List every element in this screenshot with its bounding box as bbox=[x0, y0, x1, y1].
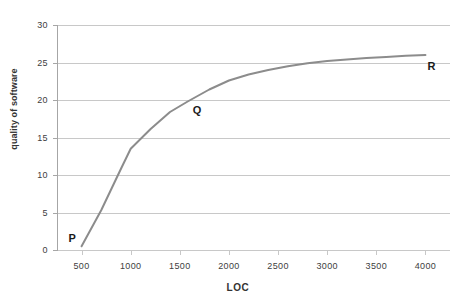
x-tick-500 bbox=[82, 251, 83, 255]
x-tick-2500 bbox=[278, 251, 279, 255]
y-tick-30 bbox=[53, 25, 57, 26]
y-tick-0 bbox=[53, 250, 57, 251]
x-tick-label-2500: 2500 bbox=[255, 262, 301, 271]
x-tick-3500 bbox=[376, 251, 377, 255]
x-tick-4000 bbox=[425, 251, 426, 255]
x-tick-label-3500: 3500 bbox=[353, 262, 399, 271]
point-label-q: Q bbox=[193, 105, 202, 116]
y-tick-label-20: 20 bbox=[18, 96, 48, 105]
x-tick-label-2000: 2000 bbox=[206, 262, 252, 271]
y-tick-label-30: 30 bbox=[18, 21, 48, 30]
gridline-y-10 bbox=[57, 175, 450, 176]
x-tick-1000 bbox=[131, 251, 132, 255]
point-label-p: P bbox=[69, 233, 76, 244]
x-tick-label-1000: 1000 bbox=[108, 262, 154, 271]
y-tick-25 bbox=[53, 63, 57, 64]
y-tick-10 bbox=[53, 175, 57, 176]
y-tick-label-10: 10 bbox=[18, 171, 48, 180]
y-tick-label-15: 15 bbox=[18, 134, 48, 143]
y-tick-label-25: 25 bbox=[18, 59, 48, 68]
x-tick-3000 bbox=[327, 251, 328, 255]
gridline-y-20 bbox=[57, 100, 450, 101]
y-tick-20 bbox=[53, 100, 57, 101]
y-tick-label-0: 0 bbox=[18, 246, 48, 255]
y-tick-5 bbox=[53, 213, 57, 214]
y-axis-title: quality of software bbox=[9, 49, 19, 169]
x-tick-label-4000: 4000 bbox=[402, 262, 448, 271]
x-tick-1500 bbox=[180, 251, 181, 255]
gridline-y-25 bbox=[57, 63, 450, 64]
gridline-y-30 bbox=[57, 25, 450, 26]
chart-container: 051015202530 500100015002000250030003500… bbox=[0, 0, 476, 308]
y-axis-line bbox=[57, 25, 58, 251]
y-tick-15 bbox=[53, 138, 57, 139]
x-axis-title: LOC bbox=[0, 282, 476, 293]
gridline-y-0 bbox=[57, 250, 450, 251]
x-tick-label-1500: 1500 bbox=[157, 262, 203, 271]
plot-area bbox=[57, 25, 450, 250]
y-tick-label-5: 5 bbox=[18, 209, 48, 218]
gridline-y-5 bbox=[57, 213, 450, 214]
x-tick-label-3000: 3000 bbox=[304, 262, 350, 271]
point-label-r: R bbox=[427, 61, 435, 72]
x-tick-2000 bbox=[229, 251, 230, 255]
x-tick-label-500: 500 bbox=[59, 262, 105, 271]
gridline-y-15 bbox=[57, 138, 450, 139]
